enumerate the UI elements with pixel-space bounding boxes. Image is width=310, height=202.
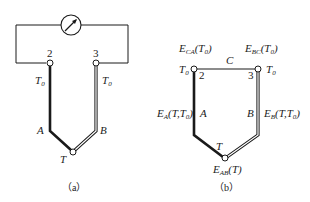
galvanometer-icon xyxy=(61,15,81,35)
wire-a xyxy=(50,66,71,150)
panel-a: 2 3 T0 T0 A B T （a） xyxy=(16,15,128,193)
circuit-wire-right xyxy=(81,25,128,63)
temp-left-label-b: T0 xyxy=(179,63,189,77)
wire-b-label-b: B xyxy=(247,107,254,119)
terminal-2-label: 2 xyxy=(47,47,53,59)
terminal-3-label: 3 xyxy=(93,47,99,59)
wire-a-label-b: A xyxy=(199,107,207,119)
junction-label: T xyxy=(60,153,67,165)
terminal-3-b xyxy=(255,66,261,72)
thermocouple-diagram: 2 3 T0 T0 A B T （a） ECA(T0) EBC(T0) T0 T… xyxy=(0,0,310,202)
wire-a-label: A xyxy=(36,124,44,136)
emf-b-label: EB(T,T0) xyxy=(263,107,300,121)
emf-a-label: EA(T,T0) xyxy=(156,107,193,121)
temp-left-label: T0 xyxy=(35,74,45,88)
emf-ca-label: ECA(T0) xyxy=(178,42,212,56)
circuit-wire-left xyxy=(16,25,61,63)
temp-right-label-b: T0 xyxy=(266,63,276,77)
terminal-2 xyxy=(47,60,53,66)
wire-b xyxy=(75,66,96,150)
hot-junction xyxy=(70,149,76,155)
junction-label-b: T xyxy=(216,140,223,152)
terminal-3-label-b: 3 xyxy=(248,69,254,81)
terminal-3 xyxy=(93,60,99,66)
terminal-2-label-b: 2 xyxy=(199,69,205,81)
emf-ab-label: EAB(T) xyxy=(212,163,242,177)
caption-a: （a） xyxy=(62,182,86,193)
wire-b-label: B xyxy=(100,124,107,136)
panel-b: ECA(T0) EBC(T0) T0 T0 2 3 C EA(T,T0) A B… xyxy=(156,42,300,193)
wire-c-label: C xyxy=(226,54,234,66)
temp-right-label: T0 xyxy=(102,74,112,88)
emf-bc-label: EBC(T0) xyxy=(244,42,278,56)
terminal-2-b xyxy=(191,66,197,72)
hot-junction-b xyxy=(222,155,228,161)
caption-b: （b） xyxy=(214,182,239,193)
